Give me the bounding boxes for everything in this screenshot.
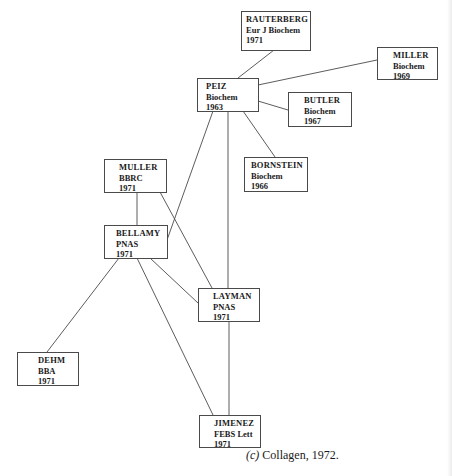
node-author: DEHM <box>38 355 78 366</box>
edge-rauterberg-peiz <box>238 50 274 78</box>
node-peiz: PEIZ Biochem 1963 <box>197 78 259 112</box>
edge-peiz-miller <box>258 60 377 85</box>
node-layman: LAYMAN PNAS 1971 <box>198 288 260 322</box>
node-journal: PNAS <box>116 239 167 250</box>
node-year: 1969 <box>393 71 437 82</box>
edge-bellamy-layman <box>150 258 198 303</box>
node-year: 1963 <box>206 102 258 113</box>
node-jimenez: JIMENEZ FEBS Lett 1971 <box>199 415 261 448</box>
node-journal: Biochem <box>393 61 437 72</box>
node-year: 1971 <box>38 376 78 387</box>
node-journal: Eur J Biochem <box>246 25 310 36</box>
node-year: 1966 <box>251 181 307 192</box>
figure-caption: (c) Collagen, 1972. <box>246 448 339 463</box>
node-muller: MULLER BBRC 1971 <box>104 159 167 193</box>
node-author: BELLAMY <box>116 228 167 239</box>
node-year: 1971 <box>246 35 310 46</box>
node-author: JIMENEZ <box>214 418 260 429</box>
node-butler: BUTLER Biochem 1967 <box>288 92 352 127</box>
node-rauterberg: RAUTERBERG Eur J Biochem 1971 <box>241 11 311 51</box>
edge-peiz-bornstein <box>243 111 275 157</box>
edge-peiz-butler <box>258 101 288 110</box>
node-year: 1971 <box>119 183 166 194</box>
edge-bellamy-dehm <box>47 258 119 352</box>
node-year: 1971 <box>116 249 167 260</box>
node-author: BUTLER <box>304 95 351 106</box>
node-author: LAYMAN <box>213 291 259 302</box>
node-journal: Biochem <box>251 171 307 182</box>
node-journal: Biochem <box>206 92 258 103</box>
node-year: 1971 <box>213 312 259 323</box>
node-miller: MILLER Biochem 1969 <box>377 47 438 80</box>
node-author: MULLER <box>119 162 166 173</box>
node-bellamy: BELLAMY PNAS 1971 <box>104 225 168 259</box>
node-journal: BBA <box>38 366 78 377</box>
node-author: BORNSTEIN <box>251 160 307 171</box>
node-author: RAUTERBERG <box>246 14 310 25</box>
edge-peiz-bellamy <box>167 111 213 240</box>
node-journal: BBRC <box>119 173 166 184</box>
node-bornstein: BORNSTEIN Biochem 1966 <box>244 157 308 192</box>
node-journal: PNAS <box>213 302 259 313</box>
node-author: PEIZ <box>206 81 258 92</box>
caption-label: (c) <box>246 448 259 462</box>
node-year: 1967 <box>304 116 351 127</box>
node-dehm: DEHM BBA 1971 <box>17 352 79 386</box>
node-journal: FEBS Lett <box>214 429 260 440</box>
node-author: MILLER <box>393 50 437 61</box>
caption-text: Collagen, 1972. <box>259 448 338 462</box>
node-journal: Biochem <box>304 106 351 117</box>
